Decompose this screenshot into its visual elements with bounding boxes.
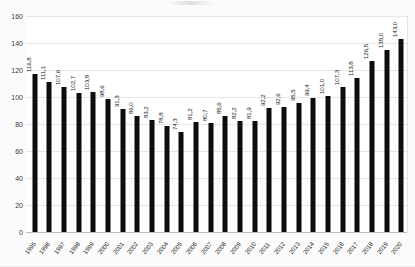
- bar-value-label: 103,8: [84, 75, 91, 90]
- bar-slot: 98,6: [101, 16, 116, 232]
- y-tick-label-80: 80: [0, 121, 23, 128]
- bar-slot: 126,5: [365, 16, 380, 232]
- bar[interactable]: [267, 108, 272, 232]
- bar[interactable]: [76, 93, 81, 232]
- y-tick-label-160: 160: [0, 13, 23, 20]
- bar-slot: 116,8: [28, 16, 43, 232]
- bar[interactable]: [237, 121, 242, 232]
- bar-value-label: 83,2: [142, 106, 149, 118]
- bar[interactable]: [252, 121, 257, 232]
- plot-area: 116,8111,1107,6102,7103,898,691,386,083,…: [26, 16, 408, 232]
- bar-value-label: 86,0: [128, 102, 135, 114]
- bar[interactable]: [150, 120, 155, 232]
- bar-slot: 102,7: [71, 16, 86, 232]
- bar-slot: 83,2: [145, 16, 160, 232]
- x-axis-line: [26, 232, 407, 233]
- bar-slot: 81,2: [189, 16, 204, 232]
- bar-value-label: 92,2: [260, 94, 267, 106]
- bar[interactable]: [369, 61, 374, 232]
- bar[interactable]: [399, 39, 404, 232]
- bar[interactable]: [120, 109, 125, 232]
- x-tick-label-1995: 1995: [23, 240, 37, 255]
- bar[interactable]: [340, 87, 345, 232]
- bar[interactable]: [47, 82, 52, 232]
- top-artifact: [168, 1, 214, 5]
- bar[interactable]: [62, 87, 67, 232]
- x-axis-labels: 1995199619971998199920002001200220032004…: [26, 234, 407, 267]
- bar-value-label: 99,4: [304, 84, 311, 96]
- bar-slot: 101,0: [321, 16, 336, 232]
- bar-value-label: 143,0: [392, 22, 399, 37]
- bar-slot: 135,0: [379, 16, 394, 232]
- bar-value-label: 81,2: [186, 109, 193, 121]
- bar-value-label: 135,0: [377, 33, 384, 48]
- bar-slot: 99,4: [306, 16, 321, 232]
- y-tick-label-140: 140: [0, 40, 23, 47]
- bar[interactable]: [106, 99, 111, 232]
- bar-value-label: 111,1: [40, 66, 47, 80]
- bar-value-label: 113,8: [348, 62, 355, 77]
- bar[interactable]: [179, 132, 184, 232]
- bar-value-label: 107,3: [333, 70, 340, 85]
- bar-value-label: 107,6: [55, 70, 62, 85]
- y-tick-label-0: 0: [0, 229, 23, 236]
- bar-value-label: 92,6: [274, 93, 281, 105]
- bar[interactable]: [355, 78, 360, 232]
- bar-chart: 116,8111,1107,6102,7103,898,691,386,083,…: [0, 0, 415, 267]
- bar-value-label: 95,5: [289, 89, 296, 101]
- bar[interactable]: [281, 107, 286, 232]
- y-tick-label-40: 40: [0, 175, 23, 182]
- x-label-slot: 2020: [394, 234, 409, 267]
- bar-value-label: 98,6: [98, 85, 105, 97]
- bar-value-label: 74,3: [172, 118, 179, 130]
- bar-value-label: 91,3: [113, 95, 120, 107]
- bar-value-label: 116,8: [25, 58, 32, 73]
- bar[interactable]: [311, 98, 316, 232]
- bar-slot: 111,1: [42, 16, 57, 232]
- bar-value-label: 101,0: [318, 79, 325, 94]
- bar-value-label: 126,5: [362, 44, 369, 59]
- y-tick-label-60: 60: [0, 148, 23, 155]
- bar-slot: 92,6: [277, 16, 292, 232]
- bar-slot: 74,3: [174, 16, 189, 232]
- y-tick-label-20: 20: [0, 202, 23, 209]
- bar-value-label: 80,7: [201, 109, 208, 121]
- bar-value-label: 81,9: [245, 108, 252, 120]
- bar[interactable]: [135, 116, 140, 232]
- bar-slot: 143,0: [394, 16, 409, 232]
- bar-value-label: 102,7: [69, 76, 76, 91]
- bar[interactable]: [194, 122, 199, 232]
- bar-slot: 92,2: [262, 16, 277, 232]
- bar-series: 116,8111,1107,6102,7103,898,691,386,083,…: [26, 16, 407, 232]
- bar-slot: 81,9: [247, 16, 262, 232]
- bar[interactable]: [296, 103, 301, 232]
- bar[interactable]: [208, 123, 213, 232]
- bar-slot: 82,2: [233, 16, 248, 232]
- bar-slot: 85,6: [218, 16, 233, 232]
- bar[interactable]: [223, 116, 228, 232]
- bar-slot: 80,7: [203, 16, 218, 232]
- bar[interactable]: [325, 96, 330, 232]
- bar[interactable]: [164, 126, 169, 232]
- bar-value-label: 78,8: [157, 112, 164, 124]
- bar-slot: 91,3: [115, 16, 130, 232]
- bar-slot: 107,6: [57, 16, 72, 232]
- bar-slot: 107,3: [335, 16, 350, 232]
- bar[interactable]: [32, 74, 37, 232]
- bar[interactable]: [91, 92, 96, 232]
- bar-slot: 86,0: [130, 16, 145, 232]
- y-tick-label-100: 100: [0, 94, 23, 101]
- bar-value-label: 85,6: [216, 103, 223, 115]
- bar[interactable]: [384, 50, 389, 232]
- bar-slot: 103,8: [86, 16, 101, 232]
- y-tick-label-120: 120: [0, 67, 23, 74]
- bar-value-label: 82,2: [230, 107, 237, 119]
- bar-slot: 95,5: [291, 16, 306, 232]
